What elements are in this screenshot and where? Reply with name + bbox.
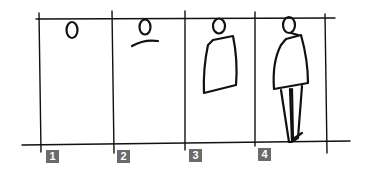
head-oval	[283, 17, 295, 33]
left-leg	[281, 89, 292, 142]
head-oval	[67, 22, 78, 38]
step-1-figure	[67, 22, 78, 38]
step-badge-1: 1	[46, 150, 59, 163]
step-3-figure	[204, 19, 237, 94]
divider-1	[39, 13, 41, 152]
step-badge-2: 2	[117, 150, 130, 163]
neck	[291, 33, 298, 35]
step-badge-3: 3	[189, 149, 202, 162]
head-oval	[140, 20, 151, 35]
head-oval	[213, 19, 225, 34]
step-4-figure	[274, 17, 308, 142]
divider-2	[112, 11, 114, 153]
ground-line	[22, 141, 350, 145]
grid-lines	[22, 11, 350, 153]
torso-block	[274, 35, 308, 89]
torso-block	[204, 36, 237, 93]
step-2-figure	[132, 20, 158, 47]
step-badge-4: 4	[258, 148, 271, 161]
divider-5	[325, 14, 327, 153]
drawing-steps-diagram	[0, 0, 370, 174]
shoulder-curve	[132, 41, 158, 46]
